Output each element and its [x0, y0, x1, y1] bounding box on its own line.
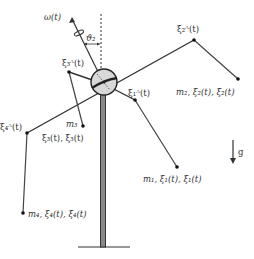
label-xi3A: ξ₃ᴬ(t) — [62, 58, 84, 68]
pendulum-2 — [194, 40, 238, 79]
pendulum-1 — [135, 100, 177, 167]
label-m3: m₃ — [66, 119, 78, 129]
axis-arrowhead — [69, 17, 75, 23]
label-m4: m₄, ξ₄(t), ξ̇₄(t) — [28, 209, 87, 219]
label-m1: m₁, ξ₁(t), ξ̇₁(t) — [143, 174, 202, 184]
label-theta: ϑ₂ — [86, 33, 96, 43]
label-m2: m₂, ξ₂(t), ξ̇₂(t) — [176, 87, 235, 97]
label-xi2A: ξ₂ᴬ(t) — [177, 24, 199, 34]
label-m3-state: ξ₃(t), ξ̇₃(t) — [42, 133, 84, 143]
pendulum-3 — [69, 72, 83, 126]
pendulum-4 — [23, 133, 27, 213]
label-xi4A: ξ₄ᴬ(t) — [0, 122, 22, 132]
tower-pole — [101, 94, 106, 247]
label-xi1A: ξ₁ᴬ(t) — [128, 88, 150, 98]
turbine-diagram: ω(t) ϑ₂ ξ₃ᴬ(t) ξ₂ᴬ(t) ξ₁ᴬ(t) ξ₄ᴬ(t) m₂, … — [0, 0, 254, 259]
label-gravity: g — [238, 147, 244, 157]
label-omega: ω(t) — [44, 12, 61, 22]
